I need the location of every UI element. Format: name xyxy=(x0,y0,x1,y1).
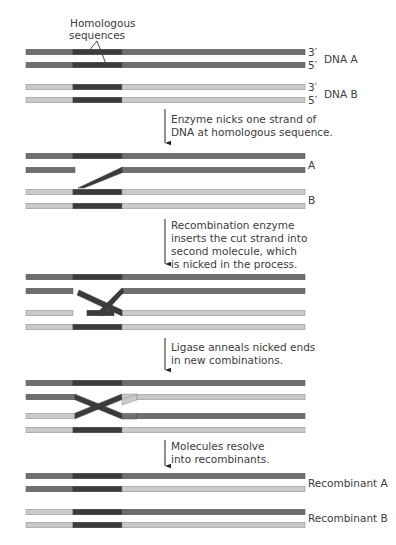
strand-b-top-right xyxy=(137,394,305,400)
strand-a-bottom-right xyxy=(137,413,305,419)
step-2-line-4: is nicked in the process. xyxy=(171,258,297,270)
strand-b-bottom-right xyxy=(122,324,305,330)
homologous-callout: Homologous sequences xyxy=(69,17,136,66)
strand-b-bottom-homologous xyxy=(73,324,122,330)
strand-b-bottom-left xyxy=(26,203,73,209)
step-3-line-2: in new combinations. xyxy=(171,354,283,366)
strand-a-bottom-right xyxy=(122,62,305,68)
recombinant-a-top-left xyxy=(26,473,73,479)
strand-a-top-right xyxy=(122,380,305,386)
recombinant-a-bottom-homologous xyxy=(73,486,122,492)
strand-b-top-left xyxy=(26,413,75,419)
strand-b-top-homologous xyxy=(73,189,122,195)
strand-b-bottom-left xyxy=(26,324,73,330)
step-4-line-1: Molecules resolve xyxy=(171,440,265,452)
strand-b-top-left xyxy=(26,310,73,316)
recombinant-b-bottom-homologous xyxy=(73,522,122,528)
strand-b-top-left xyxy=(26,84,73,90)
strand-a-bottom-left xyxy=(26,62,73,68)
strand-a-top-right xyxy=(122,153,305,159)
strand-a-top-right xyxy=(122,274,305,280)
strand-a-bottom-homologous xyxy=(73,62,122,68)
molecule-label-dna-b: DNA B xyxy=(324,88,358,100)
strand-b-top-right xyxy=(122,84,305,90)
step-4-line-2: into recombinants. xyxy=(171,453,270,465)
strand-a-bottom-right xyxy=(122,167,305,173)
strand-a-top-left xyxy=(26,274,73,280)
recombinant-b-top-right xyxy=(122,509,305,515)
strand-b-bottom-right xyxy=(122,97,305,103)
strand-a-top-homologous xyxy=(73,380,122,386)
molecule-label-dna-a: DNA A xyxy=(324,53,358,65)
recombinant-a-bottom-right xyxy=(122,486,305,492)
end-label-a-top: 3′ xyxy=(308,46,318,58)
step-1-line-1: Enzyme nicks one strand of xyxy=(171,113,317,125)
strand-a-top-homologous xyxy=(73,49,122,55)
step-4: Molecules resolve into recombinants. xyxy=(165,440,270,466)
recombinant-b-top-homologous xyxy=(73,509,122,515)
strand-a-top-left xyxy=(26,49,73,55)
recombinant-a-top-right xyxy=(122,473,305,479)
panel-strand-invasion xyxy=(26,274,305,330)
molecule-label-a: A xyxy=(308,159,316,171)
recombinant-b-label: Recombinant B xyxy=(308,512,388,524)
recombinant-a-top-homologous xyxy=(73,473,122,479)
strand-a-top-homologous xyxy=(73,153,122,159)
strand-a-bottom-left xyxy=(26,394,75,400)
strand-b-top-right xyxy=(122,189,305,195)
molecule-label-b: B xyxy=(308,194,315,206)
callout-line-2: sequences xyxy=(69,29,125,41)
panel-nicked xyxy=(26,153,305,209)
strand-a-bottom-right xyxy=(122,288,305,294)
strand-a-bottom-left xyxy=(26,167,75,173)
recombinant-b-bottom-left xyxy=(26,522,73,528)
callout-line-1: Homologous xyxy=(70,17,136,29)
strand-a-top-right xyxy=(122,49,305,55)
strand-b-top-right xyxy=(122,310,305,316)
recombinant-b-top-left xyxy=(26,509,73,515)
strand-b-top-left xyxy=(26,189,73,195)
strand-b-bottom-homologous xyxy=(73,97,122,103)
strand-b-bottom-left xyxy=(26,427,73,433)
panel-ligated-holliday xyxy=(26,380,305,433)
step-2-line-2: inserts the cut strand into xyxy=(171,232,307,244)
strand-b-bottom-homologous xyxy=(73,427,122,433)
recombinant-a-bottom-left xyxy=(26,486,73,492)
strand-b-top-homologous xyxy=(73,84,122,90)
step-1: Enzyme nicks one strand of DNA at homolo… xyxy=(165,109,333,143)
panel-recombinants xyxy=(26,473,305,528)
junction-a-lower xyxy=(122,413,137,419)
strand-a-top-homologous xyxy=(73,274,122,280)
strand-a-bottom-left xyxy=(26,288,73,294)
step-2: Recombination enzyme inserts the cut str… xyxy=(165,219,307,270)
strand-a-top-left xyxy=(26,380,73,386)
recombination-diagram: Homologous sequences 3′ 5′ 3′ 5′ DNA A D… xyxy=(0,0,396,545)
strand-b-bottom-right xyxy=(122,203,305,209)
cut-strand xyxy=(78,167,122,188)
recombinant-a-label: Recombinant A xyxy=(308,477,388,489)
strand-b-bottom-left xyxy=(26,97,73,103)
step-3-line-1: Ligase anneals nicked ends xyxy=(171,341,315,353)
step-2-line-1: Recombination enzyme xyxy=(171,219,294,231)
end-label-b-top: 3′ xyxy=(308,81,318,93)
strand-b-bottom-homologous xyxy=(73,203,122,209)
end-label-b-bottom: 5′ xyxy=(308,94,318,106)
step-2-line-3: second molecule, which xyxy=(171,245,297,257)
panel-initial-dna xyxy=(26,49,305,103)
strand-b-bottom-right xyxy=(122,427,305,433)
step-3: Ligase anneals nicked ends in new combin… xyxy=(165,338,315,370)
recombinant-b-bottom-right xyxy=(122,522,305,528)
end-label-a-bottom: 5′ xyxy=(308,59,318,71)
strand-a-top-left xyxy=(26,153,73,159)
step-1-line-2: DNA at homologous sequence. xyxy=(171,126,333,138)
